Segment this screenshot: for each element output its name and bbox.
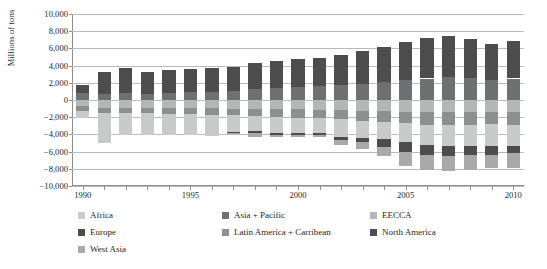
bar-segment xyxy=(205,92,218,100)
y-tick-label: 6,000 xyxy=(49,43,68,53)
bar-column[interactable] xyxy=(291,14,304,186)
bar-segment xyxy=(507,79,520,101)
bar-segment xyxy=(227,115,240,132)
bar-column[interactable] xyxy=(356,14,369,186)
bar-segment xyxy=(76,93,89,100)
legend-label: Latin America + Carribean xyxy=(234,227,331,237)
legend-item[interactable]: Europe xyxy=(78,227,116,237)
bar-segment xyxy=(377,111,390,122)
x-tick-label: 2000 xyxy=(289,190,306,200)
bar-column[interactable] xyxy=(270,14,283,186)
bar-column[interactable] xyxy=(227,14,240,186)
bar-segment xyxy=(98,72,111,94)
bar-column[interactable] xyxy=(464,14,477,186)
bar-segment xyxy=(291,109,304,117)
bar-column[interactable] xyxy=(205,14,218,186)
bar-series-group xyxy=(72,14,524,186)
bar-column[interactable] xyxy=(377,14,390,186)
bar-column[interactable] xyxy=(162,14,175,186)
y-tick-label: −8,000 xyxy=(44,164,68,174)
bar-column[interactable] xyxy=(485,14,498,186)
bar-segment xyxy=(420,38,433,78)
bar-column[interactable] xyxy=(420,14,433,186)
legend-item[interactable]: Africa xyxy=(78,210,113,220)
bar-column[interactable] xyxy=(76,14,89,186)
bar-segment xyxy=(205,115,218,136)
bar-segment xyxy=(507,41,520,79)
bar-segment xyxy=(334,55,347,85)
bar-segment xyxy=(119,68,132,93)
bar-segment xyxy=(205,100,218,108)
bar-segment xyxy=(420,145,433,155)
bar-segment xyxy=(507,112,520,124)
x-tick-label: 1995 xyxy=(182,190,199,200)
bar-segment xyxy=(248,116,261,131)
legend-swatch xyxy=(222,212,229,219)
bar-segment xyxy=(356,121,369,139)
bar-column[interactable] xyxy=(184,14,197,186)
y-tick-label: 10,000 xyxy=(44,9,68,19)
bar-segment xyxy=(399,42,412,81)
bar-segment xyxy=(162,114,175,136)
bar-column[interactable] xyxy=(313,14,326,186)
bar-column[interactable] xyxy=(141,14,154,186)
legend-item[interactable]: North America xyxy=(370,227,436,237)
legend-label: North America xyxy=(382,227,436,237)
bar-segment xyxy=(420,100,433,112)
bar-column[interactable] xyxy=(248,14,261,186)
plot-area: 10,0008,0006,0004,0002,0000−2,000−4,000−… xyxy=(72,14,524,186)
bar-segment xyxy=(356,51,369,84)
bar-segment xyxy=(227,100,240,109)
legend-item[interactable]: Asia + Pacific xyxy=(222,210,285,220)
chart-page: Millions of tons 10,0008,0006,0004,0002,… xyxy=(0,0,547,269)
bar-segment xyxy=(377,122,390,139)
bar-segment xyxy=(356,100,369,111)
y-tick-label: −6,000 xyxy=(44,147,68,157)
bar-segment xyxy=(420,155,433,170)
legend-item[interactable]: EECCA xyxy=(370,210,412,220)
bar-segment xyxy=(356,84,369,100)
bar-segment xyxy=(313,110,326,119)
bar-segment xyxy=(270,109,283,117)
bar-segment xyxy=(184,100,197,108)
y-tick-label: −4,000 xyxy=(44,129,68,139)
bar-segment xyxy=(334,110,347,119)
bar-segment xyxy=(227,91,240,100)
bar-segment xyxy=(442,77,455,100)
bar-segment xyxy=(485,124,498,146)
bar-segment xyxy=(464,100,477,112)
bar-segment xyxy=(119,93,132,100)
legend-swatch xyxy=(370,212,377,219)
bar-segment xyxy=(184,69,197,93)
legend-item[interactable]: Latin America + Carribean xyxy=(222,227,331,237)
bar-segment xyxy=(119,113,132,135)
bar-segment xyxy=(248,63,261,88)
bar-segment xyxy=(141,72,154,94)
bar-column[interactable] xyxy=(399,14,412,186)
bar-segment xyxy=(485,155,498,168)
bar-segment xyxy=(464,146,477,155)
bar-segment xyxy=(270,100,283,109)
bar-segment xyxy=(313,135,326,137)
x-tick-label: 2005 xyxy=(397,190,414,200)
bar-segment xyxy=(377,100,390,111)
y-tick-label: 8,000 xyxy=(49,26,68,36)
bar-segment xyxy=(399,112,412,124)
bar-column[interactable] xyxy=(98,14,111,186)
legend-label: Europe xyxy=(90,227,116,237)
bar-column[interactable] xyxy=(442,14,455,186)
legend-item[interactable]: West Asia xyxy=(78,244,126,254)
bar-segment xyxy=(248,89,261,100)
legend-label: EECCA xyxy=(382,210,412,220)
bar-column[interactable] xyxy=(119,14,132,186)
legend-swatch xyxy=(222,229,229,236)
bar-column[interactable] xyxy=(334,14,347,186)
bar-segment xyxy=(227,67,240,91)
bar-column[interactable] xyxy=(507,14,520,186)
x-axis-tick-labels: 19901995200020052010 xyxy=(72,190,524,204)
bar-segment xyxy=(184,92,197,100)
bar-segment xyxy=(442,156,455,171)
bar-segment xyxy=(313,100,326,110)
bar-segment xyxy=(270,61,283,88)
bar-segment xyxy=(464,78,477,100)
